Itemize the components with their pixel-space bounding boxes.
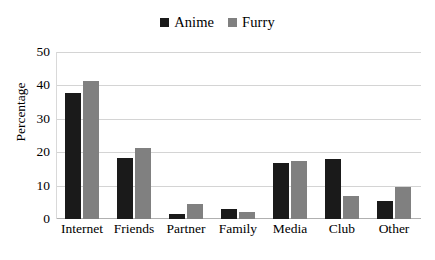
bar-anime-internet [65,93,81,219]
bar-furry-club [343,196,359,219]
y-axis-ticks: 50 40 30 20 10 0 [0,52,50,219]
bar-group-other [368,52,420,219]
x-tick-label-friends: Friends [108,222,160,236]
bar-furry-media [291,161,307,219]
bar-group-internet [56,52,108,219]
x-tick-label-media: Media [264,222,316,236]
bar-group-media [264,52,316,219]
bar-group-family [212,52,264,219]
y-tick-label: 10 [4,179,50,193]
legend-swatch-anime-icon [160,18,169,27]
bar-chart: Anime Furry Percentage 50 40 30 20 10 0 [0,0,435,260]
bar-anime-other [377,201,393,219]
y-tick-label: 30 [4,112,50,126]
bar-group-friends [108,52,160,219]
bar-furry-friends [135,148,151,219]
x-tick-label-partner: Partner [160,222,212,236]
y-tick-label: 0 [4,212,50,226]
x-tick-label-other: Other [368,222,420,236]
x-axis-ticks: Internet Friends Partner Family Media Cl… [56,222,420,236]
y-tick-label: 20 [4,145,50,159]
bar-anime-partner [169,214,185,219]
legend-item-anime: Anime [160,15,214,30]
bar-furry-other [395,187,411,219]
legend-swatch-furry-icon [228,18,237,27]
bar-group-partner [160,52,212,219]
x-tick-label-family: Family [212,222,264,236]
legend-label-anime: Anime [174,15,214,30]
bar-group-club [316,52,368,219]
bar-furry-family [239,212,255,219]
bar-furry-partner [187,204,203,219]
legend-label-furry: Furry [242,15,275,30]
x-tick-label-internet: Internet [56,222,108,236]
x-tick-label-club: Club [316,222,368,236]
y-tick-label: 50 [4,45,50,59]
bar-anime-friends [117,158,133,219]
bar-anime-media [273,163,289,219]
bar-anime-club [325,159,341,219]
bar-furry-internet [83,81,99,219]
chart-legend: Anime Furry [0,12,435,32]
bar-groups [56,52,420,219]
bar-anime-family [221,209,237,219]
y-tick-label: 40 [4,78,50,92]
legend-item-furry: Furry [228,15,275,30]
